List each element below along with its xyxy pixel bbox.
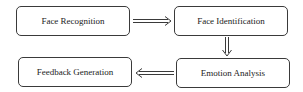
node-label: Feedback Generation — [37, 67, 114, 77]
node-face-identification: Face Identification — [174, 6, 288, 36]
node-feedback-generation: Feedback Generation — [18, 57, 132, 87]
arrow-recognition-to-identification — [133, 17, 171, 26]
node-label: Emotion Analysis — [201, 68, 265, 78]
node-label: Face Recognition — [41, 16, 104, 26]
arrow-emotion-to-feedback — [136, 69, 174, 78]
node-emotion-analysis: Emotion Analysis — [176, 58, 290, 88]
node-face-recognition: Face Recognition — [16, 6, 130, 36]
arrow-identification-to-emotion — [223, 37, 232, 56]
node-label: Face Identification — [197, 16, 265, 26]
